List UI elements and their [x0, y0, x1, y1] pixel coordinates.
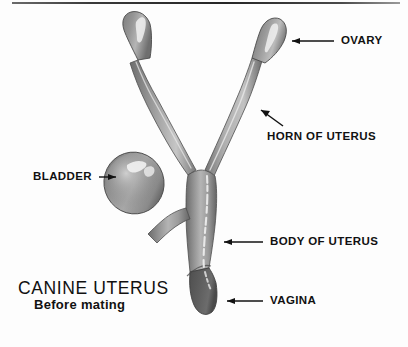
label-ovary: OVARY — [341, 35, 383, 47]
caption-title: CANINE UTERUS — [18, 279, 169, 297]
arrow-diagonal-up-left-icon-horn — [261, 110, 283, 126]
arrow-left-icon-body — [224, 239, 263, 245]
figure-caption: CANINE UTERUS Before mating — [18, 279, 169, 313]
bladder-neck — [148, 208, 190, 243]
vagina-segment — [190, 268, 217, 314]
label-bladder: BLADDER — [33, 171, 92, 183]
label-body-of-uterus: BODY OF UTERUS — [270, 236, 378, 248]
canine-uterus-figure: OVARY HORN OF UTERUS BLADDER BODY OF UTE… — [0, 0, 408, 347]
bladder-sheen — [98, 147, 169, 219]
anatomy-group — [96, 12, 286, 315]
caption-subtitle: Before mating — [34, 298, 169, 312]
label-horn-of-uterus: HORN OF UTERUS — [267, 131, 376, 143]
arrow-left-icon-vagina — [227, 298, 263, 304]
arrow-left-icon-ovary — [292, 38, 334, 44]
body-of-uterus — [186, 170, 217, 272]
label-vagina: VAGINA — [270, 295, 316, 307]
